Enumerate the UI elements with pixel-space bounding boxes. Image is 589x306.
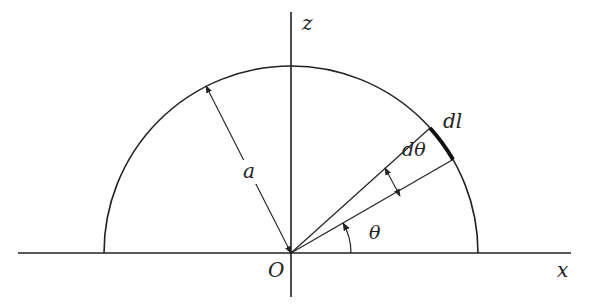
dl-label: dl bbox=[443, 109, 462, 133]
semicircle-diagram: z x O a dl dθ θ bbox=[0, 0, 589, 306]
dtheta-label: dθ bbox=[402, 138, 426, 160]
dtheta-arrow bbox=[385, 168, 400, 196]
radius-label: a bbox=[243, 159, 255, 183]
z-axis-label: z bbox=[301, 11, 313, 35]
theta-label: θ bbox=[369, 221, 381, 243]
origin-label: O bbox=[268, 258, 284, 282]
x-axis-label: x bbox=[557, 258, 568, 282]
theta-arc-arrow bbox=[343, 223, 351, 253]
